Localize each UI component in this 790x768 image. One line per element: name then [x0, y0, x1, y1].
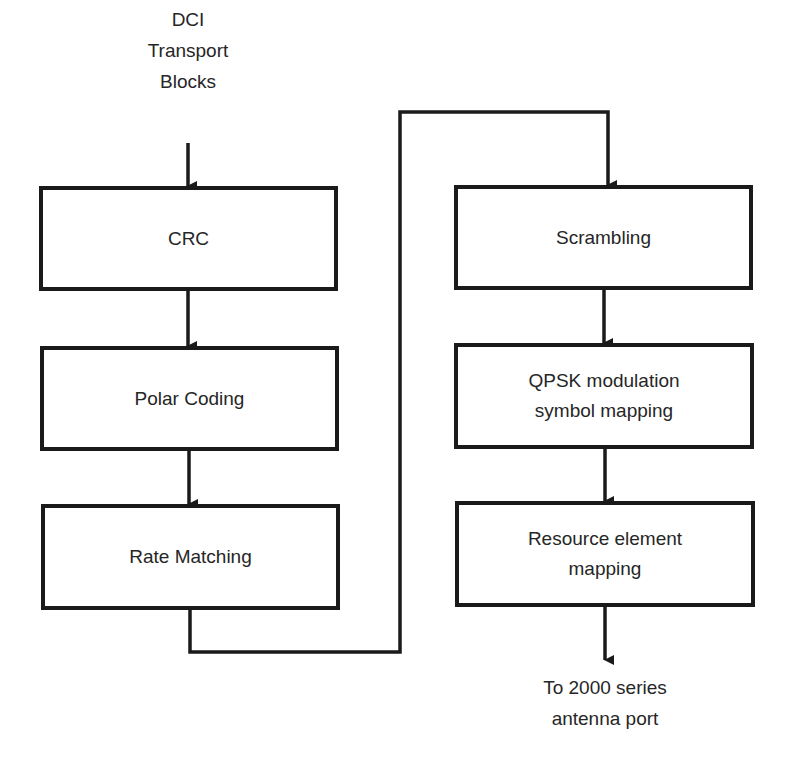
box-qpsk-modulation-label: QPSK modulation symbol mapping — [528, 366, 679, 426]
box-resource-element-mapping: Resource element mapping — [455, 501, 755, 607]
output-label: To 2000 series antenna port — [505, 672, 705, 734]
box-scrambling: Scrambling — [454, 185, 753, 290]
flowchart-canvas: DCI Transport Blocks CRC Polar Coding Ra… — [0, 0, 790, 768]
box-polar-coding-label: Polar Coding — [135, 384, 245, 414]
box-polar-coding: Polar Coding — [40, 346, 339, 451]
box-crc: CRC — [39, 186, 338, 291]
box-resource-element-mapping-label: Resource element mapping — [528, 524, 682, 584]
box-rate-matching: Rate Matching — [41, 504, 340, 610]
box-qpsk-modulation: QPSK modulation symbol mapping — [454, 343, 754, 449]
input-label: DCI Transport Blocks — [128, 4, 248, 97]
box-crc-label: CRC — [168, 224, 209, 254]
box-scrambling-label: Scrambling — [556, 223, 651, 253]
box-rate-matching-label: Rate Matching — [129, 542, 252, 572]
